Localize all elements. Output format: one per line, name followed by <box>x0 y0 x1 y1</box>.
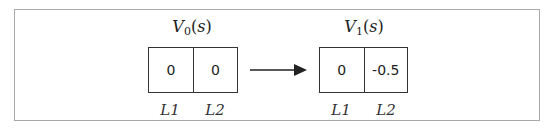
v0-cell-l2: 0 <box>193 48 237 92</box>
v1-cell-l2: -0.5 <box>364 48 408 92</box>
v1-label-l2: L2 <box>364 101 408 119</box>
v1-title-arg: s <box>369 17 377 36</box>
v1-label-l1: L1 <box>319 101 363 119</box>
v0-cell-l1: 0 <box>149 48 193 92</box>
v1-cell-l1: 0 <box>320 48 364 92</box>
v0-table: 0 0 <box>148 47 238 93</box>
v0-title-subscript: 0 <box>184 25 191 38</box>
v1-title: V1(s) <box>344 17 383 38</box>
arrow-right-icon <box>250 63 308 77</box>
v0-title: V0(s) <box>172 17 211 38</box>
v1-title-symbol: V <box>344 17 356 36</box>
v1-table: 0 -0.5 <box>319 47 408 93</box>
v0-label-l2: L2 <box>193 101 237 119</box>
v0-label-l1: L1 <box>148 101 192 119</box>
v0-title-symbol: V <box>172 17 184 36</box>
v0-title-arg: s <box>197 17 205 36</box>
v1-title-subscript: 1 <box>356 25 363 38</box>
